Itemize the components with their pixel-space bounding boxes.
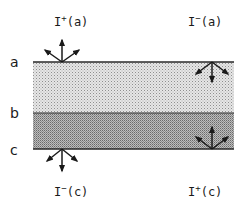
boundary-label-b: b [10,105,19,121]
boundary-label-a: a [10,54,19,70]
boundary-label-c: c [10,142,18,158]
upward-flux-arrows-a-icon [45,40,79,62]
two-layer-flux-diagram: a b c I+(a) I−(a) I−(c) I+(c) [0,0,245,209]
upper-layer [33,62,234,113]
downward-flux-arrows-c-icon [47,149,77,171]
flux-label-I-minus-c: I−(c) [54,183,88,199]
flux-label-I-plus-c: I+(c) [188,183,222,199]
flux-label-I-plus-a: I+(a) [54,13,88,29]
flux-label-I-minus-a: I−(a) [188,13,222,29]
